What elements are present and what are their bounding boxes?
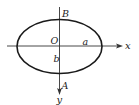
label-semi-major-a: a [83,36,89,47]
label-x-axis: x [125,40,131,51]
ellipse-diagram: x y O B A a b [0,0,139,105]
label-point-b: B [61,8,69,19]
label-origin: O [51,35,59,46]
label-y-axis: y [56,94,63,105]
label-semi-minor-b: b [54,53,60,64]
label-point-a: A [61,80,69,91]
